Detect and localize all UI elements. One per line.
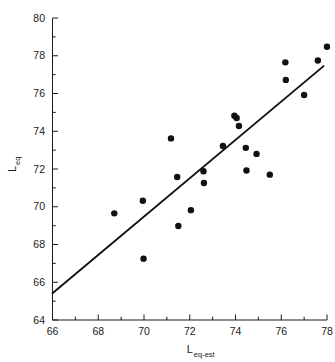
y-tick-label: 70	[33, 200, 45, 212]
y-tick-label: 72	[33, 163, 45, 175]
data-point	[220, 143, 226, 149]
scatter-plot-svg: 66687072747678 646668707274767880 Leq-es…	[0, 0, 335, 362]
y-tick-label: 66	[33, 276, 45, 288]
data-point	[174, 174, 180, 180]
data-point	[301, 92, 307, 98]
data-point	[233, 115, 239, 121]
y-axis-label-main: L	[6, 166, 18, 172]
data-point	[243, 167, 249, 173]
y-tick-label: 68	[33, 238, 45, 250]
x-tick-label: 68	[92, 325, 104, 337]
y-tick-label: 64	[33, 314, 45, 326]
x-tick-label: 78	[321, 325, 333, 337]
data-point	[267, 171, 273, 177]
y-axis-label-subscript: eq	[13, 157, 22, 165]
y-tick-label: 74	[33, 125, 45, 137]
data-point	[243, 145, 249, 151]
data-point	[188, 207, 194, 213]
data-point	[253, 151, 259, 157]
x-tick-label: 72	[184, 325, 196, 337]
data-point	[282, 59, 288, 65]
data-point	[315, 57, 321, 63]
data-point	[200, 168, 206, 174]
data-point	[236, 123, 242, 129]
data-point	[324, 43, 330, 49]
data-point	[111, 210, 117, 216]
x-tick-label: 66	[47, 325, 59, 337]
data-point	[140, 198, 146, 204]
plot-background	[0, 0, 335, 362]
y-tick-label: 76	[33, 87, 45, 99]
data-point	[283, 77, 289, 83]
x-tick-label: 76	[275, 325, 287, 337]
data-point	[201, 180, 207, 186]
scatter-plot-figure: 66687072747678 646668707274767880 Leq-es…	[0, 0, 335, 362]
x-tick-label: 74	[230, 325, 242, 337]
y-axis-tick-labels: 646668707274767880	[33, 12, 45, 326]
x-tick-label: 70	[138, 325, 150, 337]
data-point	[168, 135, 174, 141]
data-point	[140, 255, 146, 261]
y-tick-label: 78	[33, 49, 45, 61]
x-axis-label-main: L	[187, 343, 193, 355]
x-axis-label-subscript: eq-est	[194, 350, 216, 359]
y-tick-label: 80	[33, 12, 45, 24]
data-point	[175, 223, 181, 229]
